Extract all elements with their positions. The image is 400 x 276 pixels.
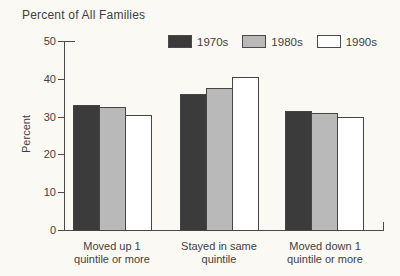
y-tick-label-40: 40 xyxy=(34,73,56,85)
category-label-2: Stayed in same quintile xyxy=(173,240,265,266)
y-tick-20 xyxy=(58,154,64,155)
y-tick-10 xyxy=(58,192,64,193)
y-tick-label-50: 50 xyxy=(34,35,56,47)
bar-1970s-group2 xyxy=(180,94,207,231)
bar-chart-figure: Percent of All Families Percent 1970s198… xyxy=(0,0,400,276)
legend-label-1980s: 1980s xyxy=(271,36,302,48)
legend-swatch-1970s xyxy=(168,35,192,48)
bar-1990s-group1 xyxy=(125,115,152,231)
y-axis-line xyxy=(64,41,65,231)
bar-1990s-group3 xyxy=(337,117,364,231)
bar-1990s-group2 xyxy=(232,77,259,231)
y-tick-label-30: 30 xyxy=(34,111,56,123)
legend-swatch-1980s xyxy=(242,35,266,48)
y-tick-40 xyxy=(58,79,64,80)
y-axis-top-hook xyxy=(58,41,75,42)
y-axis-title: Percent xyxy=(20,104,32,164)
bar-1980s-group2 xyxy=(206,88,233,231)
y-tick-0 xyxy=(58,230,64,231)
legend-label-1990s: 1990s xyxy=(346,36,377,48)
bar-1970s-group1 xyxy=(73,105,100,231)
legend-swatch-1990s xyxy=(317,35,341,48)
category-label-3: Moved down 1 quintile or more xyxy=(279,240,371,266)
chart-title: Percent of All Families xyxy=(22,8,145,22)
bar-1980s-group3 xyxy=(311,113,338,231)
y-tick-30 xyxy=(58,117,64,118)
legend-item-1970s: 1970s xyxy=(168,35,228,48)
y-tick-label-0: 0 xyxy=(34,224,56,236)
category-label-1: Moved up 1 quintile or more xyxy=(66,240,158,266)
legend-item-1990s: 1990s xyxy=(317,35,377,48)
legend: 1970s1980s1990s xyxy=(168,35,391,48)
x-axis-end-hook xyxy=(383,222,384,231)
legend-item-1980s: 1980s xyxy=(242,35,302,48)
y-tick-label-20: 20 xyxy=(34,148,56,160)
legend-label-1970s: 1970s xyxy=(197,36,228,48)
bar-1970s-group3 xyxy=(285,111,312,231)
bar-1980s-group1 xyxy=(99,107,126,231)
y-tick-label-10: 10 xyxy=(34,186,56,198)
